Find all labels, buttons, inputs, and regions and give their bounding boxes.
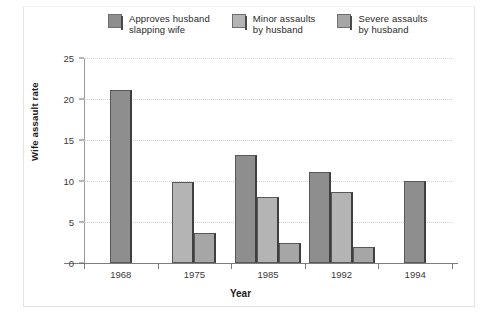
gridline bbox=[84, 140, 452, 142]
x-tick-label-1968: 1968 bbox=[110, 269, 131, 280]
y-tick-mark bbox=[79, 58, 84, 59]
y-tick-label-10: 10 bbox=[52, 176, 74, 187]
x-tick-mark bbox=[158, 263, 159, 269]
frame-top-border bbox=[23, 6, 475, 7]
x-tick-mark bbox=[305, 263, 306, 269]
legend-item-2[interactable]: Severe assaults by husband bbox=[337, 13, 427, 35]
y-tick-mark bbox=[79, 140, 84, 141]
gridline bbox=[84, 181, 452, 183]
chart-legend: Approves husband slapping wifeMinor assa… bbox=[108, 13, 450, 35]
bar-1968-series-0 bbox=[110, 90, 132, 263]
y-tick-mark bbox=[79, 99, 84, 100]
x-tick-mark bbox=[378, 263, 379, 269]
y-tick-label-0: 0 bbox=[52, 258, 74, 269]
bar-1975-series-1 bbox=[172, 182, 194, 263]
frame-right-border bbox=[474, 6, 475, 307]
y-tick-mark bbox=[79, 222, 84, 223]
bar-1985-series-1 bbox=[257, 197, 279, 263]
bar-1985-series-0 bbox=[235, 155, 257, 263]
x-tick-label-1975: 1975 bbox=[184, 269, 205, 280]
legend-label-0: Approves husband slapping wife bbox=[129, 13, 210, 35]
chart-figure: Approves husband slapping wifeMinor assa… bbox=[0, 0, 481, 314]
legend-label-1: Minor assaults by husband bbox=[253, 13, 316, 35]
y-tick-label-25: 25 bbox=[52, 53, 74, 64]
y-tick-label-5: 5 bbox=[52, 217, 74, 228]
x-tick-mark bbox=[231, 263, 232, 269]
bar-1992-series-1 bbox=[331, 192, 353, 263]
plot-area bbox=[84, 58, 452, 263]
x-tick-label-1994: 1994 bbox=[405, 269, 426, 280]
y-tick-label-15: 15 bbox=[52, 135, 74, 146]
frame-bottom-border bbox=[23, 306, 475, 307]
legend-item-0[interactable]: Approves husband slapping wife bbox=[108, 13, 210, 35]
legend-swatch-icon-0 bbox=[108, 14, 122, 28]
gridline bbox=[84, 99, 452, 101]
x-axis-label: Year bbox=[0, 288, 481, 299]
x-tick-label-1985: 1985 bbox=[257, 269, 278, 280]
legend-item-1[interactable]: Minor assaults by husband bbox=[232, 13, 316, 35]
y-tick-mark bbox=[79, 181, 84, 182]
bar-1992-series-2 bbox=[353, 247, 375, 263]
bar-1985-series-2 bbox=[279, 243, 301, 263]
legend-swatch-icon-1 bbox=[232, 14, 246, 28]
x-tick-mark bbox=[84, 263, 85, 269]
legend-swatch-icon-2 bbox=[337, 14, 351, 28]
y-tick-label-20: 20 bbox=[52, 94, 74, 105]
bar-1992-series-0 bbox=[309, 172, 331, 263]
bar-1994-series-0 bbox=[404, 181, 426, 263]
bar-1975-series-2 bbox=[194, 233, 216, 263]
x-axis-line bbox=[64, 263, 458, 264]
legend-label-2: Severe assaults by husband bbox=[358, 13, 427, 35]
gridline bbox=[84, 58, 452, 60]
x-tick-label-1992: 1992 bbox=[331, 269, 352, 280]
y-axis-label: Wife assault rate bbox=[29, 82, 40, 161]
x-tick-mark bbox=[452, 263, 453, 269]
frame-left-border bbox=[23, 6, 24, 307]
